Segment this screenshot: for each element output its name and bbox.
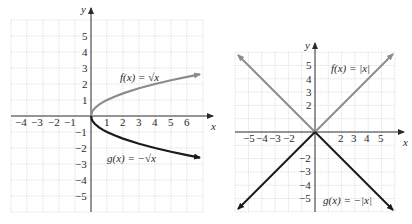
right-chart: x y −5 −4 −3 −2 2 3 4 5 5 4 3 2 −2 −3 −4… [235, 39, 408, 212]
svg-text:−1: −1 [75, 126, 87, 138]
svg-text:−1: −1 [64, 116, 76, 128]
right-g-label: g(x) = −|x| [323, 194, 372, 207]
svg-text:−4: −4 [15, 116, 27, 128]
svg-text:3: 3 [136, 116, 142, 128]
svg-text:−2: −2 [299, 152, 311, 164]
svg-text:3: 3 [306, 86, 312, 98]
svg-text:5: 5 [82, 30, 88, 42]
svg-text:2: 2 [82, 78, 88, 90]
left-x-ticks: −4 −3 −2 −1 1 2 3 4 5 6 [15, 116, 190, 128]
svg-text:4: 4 [82, 46, 88, 58]
svg-text:−2: −2 [48, 116, 60, 128]
right-f-left-branch [238, 55, 315, 132]
svg-text:2: 2 [306, 99, 312, 111]
svg-text:6: 6 [184, 116, 190, 128]
svg-text:−2: −2 [75, 142, 87, 154]
svg-text:−3: −3 [269, 132, 281, 144]
svg-text:−5: −5 [75, 190, 87, 202]
left-chart: x y −4 −3 −2 −1 1 2 3 4 5 6 5 4 3 2 1 −1… [11, 3, 216, 212]
svg-text:−4: −4 [299, 179, 311, 191]
svg-text:4: 4 [364, 132, 370, 144]
svg-text:1: 1 [82, 94, 88, 106]
svg-text:1: 1 [104, 116, 110, 128]
svg-text:−2: −2 [283, 132, 295, 144]
svg-text:−5: −5 [243, 132, 255, 144]
left-x-label: x [210, 120, 216, 132]
svg-text:−4: −4 [256, 132, 268, 144]
left-g-label: g(x) = −√x [107, 152, 156, 165]
right-x-label: x [402, 136, 408, 148]
svg-text:5: 5 [306, 59, 312, 71]
right-f-label: f(x) = |x| [331, 62, 370, 75]
svg-text:−3: −3 [299, 165, 311, 177]
svg-text:3: 3 [351, 132, 357, 144]
svg-text:4: 4 [306, 73, 312, 85]
svg-text:2: 2 [120, 116, 126, 128]
svg-text:−4: −4 [75, 174, 87, 186]
svg-text:−3: −3 [31, 116, 43, 128]
svg-text:−5: −5 [299, 192, 311, 204]
svg-text:4: 4 [152, 116, 158, 128]
left-y-label: y [80, 3, 86, 15]
left-f-label: f(x) = √x [120, 71, 159, 84]
right-y-label: y [304, 39, 310, 51]
svg-text:−3: −3 [75, 158, 87, 170]
svg-text:3: 3 [82, 62, 88, 74]
svg-text:5: 5 [168, 116, 174, 128]
svg-text:2: 2 [338, 132, 344, 144]
figure: x y −4 −3 −2 −1 1 2 3 4 5 6 5 4 3 2 1 −1… [0, 0, 412, 224]
svg-text:5: 5 [378, 132, 384, 144]
